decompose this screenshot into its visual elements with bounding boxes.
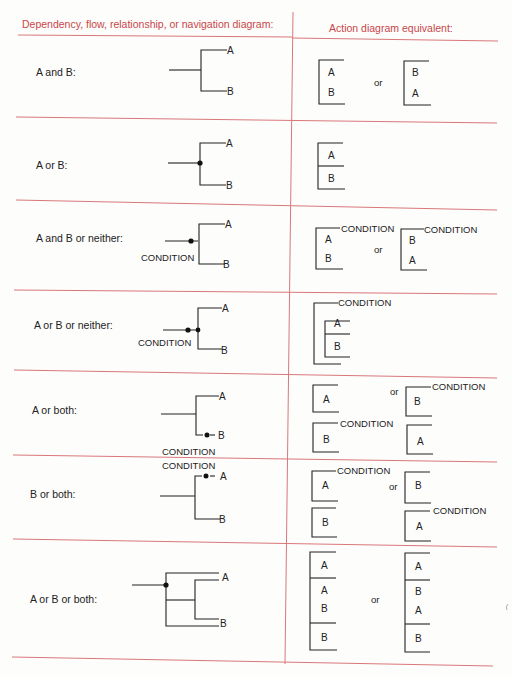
dot-exclusive-row4 bbox=[196, 328, 201, 333]
svg-text:A: A bbox=[321, 585, 328, 596]
svg-text:B: B bbox=[414, 396, 421, 407]
svg-text:A: A bbox=[409, 255, 416, 266]
svg-text:B: B bbox=[415, 633, 422, 644]
header-rule-left bbox=[18, 35, 292, 37]
svg-text:B: B bbox=[218, 430, 225, 441]
dot-condition-row3 bbox=[188, 238, 193, 243]
svg-text:CONDITION: CONDITION bbox=[341, 223, 394, 234]
svg-text:B: B bbox=[415, 586, 422, 597]
svg-text:A: A bbox=[220, 471, 227, 482]
svg-text:A: A bbox=[412, 88, 419, 99]
svg-text:B: B bbox=[323, 434, 330, 445]
flow-diagram-b-or-both bbox=[160, 476, 220, 519]
svg-text:B: B bbox=[223, 259, 230, 270]
svg-text:A: A bbox=[225, 219, 232, 230]
svg-text:CONDITION: CONDITION bbox=[337, 465, 390, 476]
svg-text:or: or bbox=[390, 386, 398, 397]
flow-diagram-a-and-b bbox=[169, 50, 227, 91]
svg-text:CONDITION: CONDITION bbox=[162, 446, 215, 457]
svg-text:B: B bbox=[220, 618, 227, 629]
svg-text:A: A bbox=[328, 67, 335, 78]
dot-a-or-b bbox=[197, 160, 202, 165]
flow-diagram-a-or-both bbox=[161, 396, 219, 435]
svg-text:B: B bbox=[412, 67, 419, 78]
svg-text:A: A bbox=[417, 436, 424, 447]
svg-text:or: or bbox=[374, 244, 382, 255]
branch-a: A bbox=[227, 45, 234, 56]
branch-b: B bbox=[227, 86, 234, 97]
svg-text:A: A bbox=[323, 394, 330, 405]
svg-text:B: B bbox=[226, 180, 233, 191]
svg-text:CONDITION: CONDITION bbox=[432, 381, 485, 392]
svg-text:B: B bbox=[219, 514, 226, 525]
svg-text:A: A bbox=[226, 138, 233, 149]
svg-text:A: A bbox=[334, 318, 341, 329]
svg-text:CONDITION: CONDITION bbox=[340, 418, 393, 429]
column-divider bbox=[285, 12, 293, 664]
svg-text:CONDITION: CONDITION bbox=[141, 252, 194, 263]
action-diagram-a-or-b-or-neither bbox=[314, 303, 350, 364]
svg-text:B: B bbox=[325, 253, 332, 264]
svg-text:or: or bbox=[389, 481, 397, 492]
table-rules bbox=[12, 12, 498, 666]
svg-text:B: B bbox=[321, 632, 328, 643]
svg-text:or: or bbox=[374, 77, 382, 88]
dot-a-or-b-or-both bbox=[163, 582, 168, 587]
dot-condition-row5 bbox=[205, 433, 210, 438]
flow-diagram-a-or-b bbox=[168, 143, 226, 185]
svg-text:CONDITION: CONDITION bbox=[433, 505, 486, 516]
svg-text:B: B bbox=[415, 480, 422, 491]
svg-text:B: B bbox=[334, 341, 341, 352]
svg-text:B: B bbox=[328, 173, 335, 184]
svg-text:CONDITION: CONDITION bbox=[138, 337, 191, 348]
svg-text:CONDITION: CONDITION bbox=[162, 460, 215, 471]
dot-condition-row4 bbox=[185, 327, 190, 332]
svg-text:B: B bbox=[221, 345, 228, 356]
diagram-canvas: A B AB or BA AB AB AB CONDITION CONDITIO… bbox=[0, 0, 512, 677]
svg-text:B: B bbox=[328, 87, 335, 98]
stray-mark bbox=[506, 604, 508, 610]
svg-text:A: A bbox=[322, 480, 329, 491]
svg-text:A: A bbox=[219, 391, 226, 402]
svg-text:A: A bbox=[321, 560, 328, 571]
svg-text:A: A bbox=[328, 150, 335, 161]
flow-diagram-a-or-b-or-both bbox=[132, 573, 219, 626]
svg-text:B: B bbox=[409, 235, 416, 246]
svg-text:A: A bbox=[325, 234, 332, 245]
svg-text:CONDITION: CONDITION bbox=[338, 297, 391, 308]
svg-text:B: B bbox=[321, 603, 328, 614]
svg-text:A: A bbox=[416, 521, 423, 532]
svg-text:or: or bbox=[371, 594, 379, 605]
diagram-labels: A B AB or BA AB AB AB CONDITION CONDITIO… bbox=[138, 45, 486, 644]
svg-text:A: A bbox=[222, 303, 229, 314]
dot-condition-row6 bbox=[204, 474, 209, 479]
svg-text:B: B bbox=[322, 517, 329, 528]
svg-text:A: A bbox=[415, 561, 422, 572]
svg-text:CONDITION: CONDITION bbox=[424, 224, 477, 235]
svg-text:A: A bbox=[222, 572, 229, 583]
svg-text:A: A bbox=[415, 605, 422, 616]
